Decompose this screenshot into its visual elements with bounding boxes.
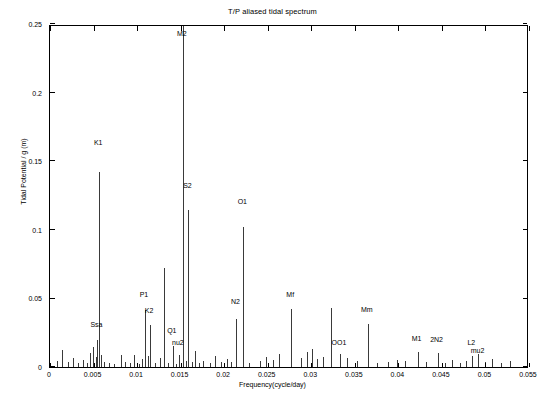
spectral-line (155, 363, 156, 367)
y-axis-tick (50, 229, 55, 230)
peak-label-s2: S2 (172, 182, 202, 189)
spectral-line (99, 172, 100, 368)
y-tick-label: 0.15 (2, 158, 42, 165)
x-axis-tick (355, 26, 356, 31)
spectral-line (203, 361, 204, 367)
spectral-line (317, 359, 318, 367)
x-tick-label: 0.03 (290, 371, 330, 378)
x-axis-tick (311, 363, 312, 368)
x-tick-label: 0.01 (116, 371, 156, 378)
spectral-line (426, 362, 427, 367)
spectral-line (139, 364, 140, 367)
spectral-line (87, 363, 88, 367)
spectral-line (134, 355, 135, 367)
x-axis-tick (398, 363, 399, 368)
spectral-line (78, 363, 79, 367)
spectral-line (168, 363, 169, 367)
x-tick-label: 0.045 (421, 371, 461, 378)
y-axis-tick (523, 23, 528, 24)
spectral-line (114, 364, 115, 367)
y-axis-tick (523, 366, 528, 367)
spectral-line (307, 352, 308, 367)
x-axis-tick (485, 26, 486, 31)
x-tick-label: 0.025 (247, 371, 287, 378)
spectral-line (236, 319, 237, 367)
spectral-line (164, 268, 165, 367)
x-axis-tick (268, 363, 269, 368)
x-axis-tick (268, 26, 269, 31)
spectral-line (273, 360, 274, 367)
spectral-line (173, 346, 174, 367)
spectral-line (279, 354, 280, 367)
peak-label-mm: Mm (352, 306, 382, 313)
spectral-line (452, 360, 453, 367)
spectral-line (199, 363, 200, 367)
plot-area (49, 25, 528, 368)
spectral-line (101, 355, 102, 367)
x-axis-tick (94, 363, 95, 368)
peak-label-o1: O1 (227, 198, 257, 205)
y-tick-label: 0 (2, 364, 42, 371)
spectral-line (125, 362, 126, 367)
x-axis-title: Frequency(cycle/day) (0, 381, 545, 388)
spectral-line (501, 363, 502, 367)
spectral-line (312, 349, 313, 367)
spectral-line (260, 361, 261, 367)
spectral-line (195, 351, 196, 367)
spectral-line (478, 354, 479, 367)
spectral-line (142, 359, 143, 367)
y-tick-label: 0.1 (2, 227, 42, 234)
peak-label-oo1: OO1 (324, 339, 354, 346)
x-tick-label: 0.005 (73, 371, 113, 378)
y-axis-title: Tidal Potential / g (m) (20, 97, 27, 247)
y-axis-tick (50, 160, 55, 161)
x-axis-tick (311, 26, 312, 31)
x-tick-label: 0.02 (203, 371, 243, 378)
spectral-line (466, 361, 467, 367)
footer-caption (0, 394, 545, 400)
y-axis-tick (50, 92, 55, 93)
spectral-line (97, 340, 98, 367)
spectral-line (397, 360, 398, 367)
x-axis-tick (442, 26, 443, 31)
spectral-line (301, 358, 302, 367)
spectral-line (145, 310, 146, 367)
tidal-spectrum-figure: T/P aliased tidal spectrum Tidal Potenti… (0, 0, 545, 400)
peak-label-n2: N2 (220, 298, 250, 305)
spectral-line (510, 361, 511, 367)
spectral-line (347, 358, 348, 367)
peak-label-l2: L2 (456, 339, 486, 346)
peak-label-q1: Q1 (157, 327, 187, 334)
spectral-line (418, 352, 419, 367)
spectral-line (405, 361, 406, 367)
spectral-line (445, 363, 446, 367)
peak-label-p1: P1 (129, 291, 159, 298)
spectral-line (57, 361, 58, 367)
spectral-line (104, 362, 105, 367)
spectral-line (186, 361, 187, 367)
peak-label-mu2: mu2 (462, 347, 492, 354)
x-axis-tick (529, 363, 530, 368)
spectral-line (460, 363, 461, 367)
spectral-line (231, 362, 232, 367)
x-axis-tick (137, 26, 138, 31)
spectral-line (83, 360, 84, 367)
y-axis-tick (50, 23, 55, 24)
spectral-line (438, 353, 439, 367)
spectral-line (90, 353, 91, 367)
x-tick-label: 0 (29, 371, 69, 378)
peak-label-k1: K1 (83, 139, 113, 146)
x-axis-tick (485, 363, 486, 368)
y-axis-tick (50, 298, 55, 299)
spectral-line (210, 363, 211, 367)
peak-label-mf: Mf (275, 291, 305, 298)
spectral-line (150, 325, 151, 367)
spectral-line (109, 363, 110, 367)
spectral-line (176, 364, 177, 367)
x-tick-label: 0.055 (508, 371, 545, 378)
y-tick-label: 0.2 (2, 90, 42, 97)
y-tick-label: 0.25 (2, 21, 42, 28)
spectral-line (357, 361, 358, 367)
spectral-line (388, 362, 389, 367)
x-axis-tick (398, 26, 399, 31)
